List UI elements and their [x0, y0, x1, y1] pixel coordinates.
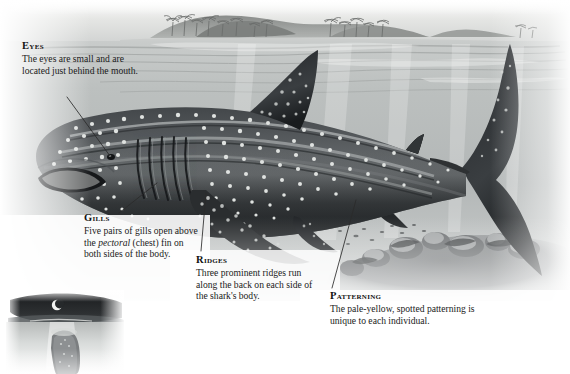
- illustration-page: Eyes The eyes are small and are located …: [0, 0, 570, 374]
- callout-heading-ridges: Ridges: [196, 254, 318, 266]
- callout-ridges: Ridges Three prominent ridges run along …: [196, 254, 318, 302]
- callout-heading-eyes: Eyes: [22, 40, 148, 52]
- callout-body-patterning: The pale-yellow, spotted patterning is u…: [330, 303, 480, 326]
- callout-body-gills: Five pairs of gills open above the pecto…: [84, 225, 202, 260]
- callout-body-ridges: Three prominent ridges run along the bac…: [196, 267, 318, 302]
- gills-body-term: pectoral: [98, 237, 130, 248]
- callout-heading-gills: Gills: [84, 212, 202, 224]
- inset-artwork: [6, 290, 124, 374]
- callout-heading-patterning: Patterning: [330, 290, 480, 302]
- callout-gills: Gills Five pairs of gills open above the…: [84, 212, 202, 260]
- callout-eyes: Eyes The eyes are small and are located …: [22, 40, 148, 76]
- callout-patterning: Patterning The pale-yellow, spotted patt…: [330, 290, 480, 326]
- callout-body-eyes: The eyes are small and are located just …: [22, 53, 148, 76]
